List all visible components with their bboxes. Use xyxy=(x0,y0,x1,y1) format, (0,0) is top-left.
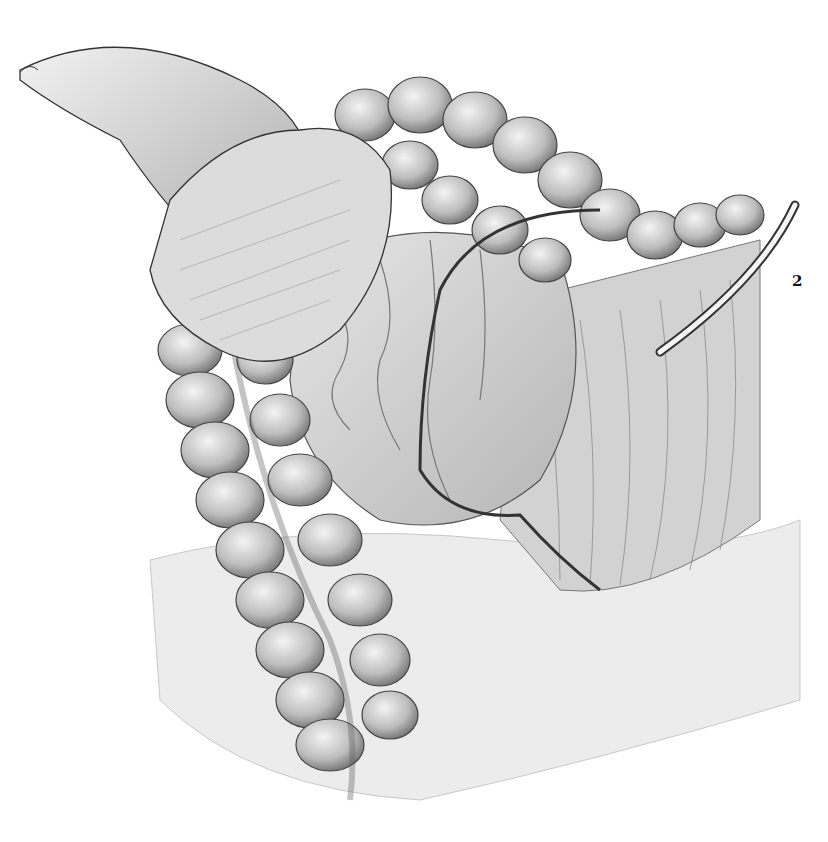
figure-label-2: 2 xyxy=(792,272,802,290)
anatomical-illustration xyxy=(0,0,828,842)
